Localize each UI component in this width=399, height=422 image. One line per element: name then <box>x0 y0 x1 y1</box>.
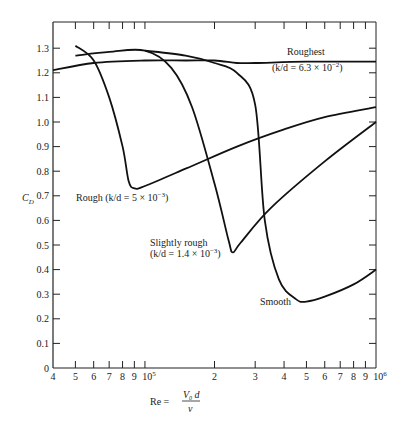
label-roughest: Roughest <box>287 46 325 57</box>
svg-text:0.9: 0.9 <box>37 141 50 152</box>
svg-text:1.0: 1.0 <box>37 117 50 128</box>
label-slightly-rough-kd: (k/d = 1.4 × 10−3) <box>150 247 221 260</box>
drag-coefficient-chart: 4567891052345678910600.10.20.30.40.50.60… <box>0 0 399 422</box>
y-axis-label: CD <box>22 192 34 206</box>
label-slightly-rough: Slightly rough <box>150 237 208 248</box>
svg-text:7: 7 <box>107 371 112 382</box>
svg-text:5: 5 <box>73 371 78 382</box>
svg-text:ν: ν <box>188 403 193 414</box>
svg-text:4: 4 <box>51 371 56 382</box>
axis-tick-labels: 4567891052345678910600.10.20.30.40.50.60… <box>37 43 388 382</box>
svg-text:2: 2 <box>212 371 217 382</box>
svg-text:0.6: 0.6 <box>37 215 50 226</box>
svg-text:0.4: 0.4 <box>37 264 50 275</box>
svg-text:1.3: 1.3 <box>37 43 50 54</box>
svg-text:7: 7 <box>338 371 343 382</box>
svg-text:1.2: 1.2 <box>37 67 50 78</box>
svg-text:6: 6 <box>322 371 327 382</box>
svg-text:105: 105 <box>142 370 156 382</box>
svg-text:9: 9 <box>363 371 368 382</box>
curves <box>53 46 376 302</box>
svg-text:1.1: 1.1 <box>37 92 50 103</box>
svg-text:0.8: 0.8 <box>37 166 50 177</box>
svg-text:4: 4 <box>282 371 287 382</box>
label-smooth: Smooth <box>260 296 291 307</box>
smooth-curve <box>145 51 376 302</box>
svg-text:3: 3 <box>253 371 258 382</box>
svg-text:0.7: 0.7 <box>37 190 50 201</box>
svg-text:0.3: 0.3 <box>37 289 50 300</box>
x-axis-label: Re = V0 d ν <box>150 389 201 414</box>
svg-text:5: 5 <box>304 371 309 382</box>
svg-text:Re =: Re = <box>150 396 170 407</box>
svg-text:106: 106 <box>373 370 387 382</box>
svg-text:8: 8 <box>120 371 125 382</box>
svg-text:0.5: 0.5 <box>37 240 50 251</box>
label-rough: Rough (k/d = 5 × 10−3) <box>76 191 168 204</box>
svg-text:8: 8 <box>351 371 356 382</box>
svg-text:V0 d: V0 d <box>183 389 201 401</box>
svg-text:9: 9 <box>132 371 137 382</box>
svg-text:0.2: 0.2 <box>37 313 50 324</box>
svg-text:6: 6 <box>91 371 96 382</box>
label-roughest-kd: (k/d = 6.3 × 10−2) <box>272 61 343 74</box>
svg-text:0.1: 0.1 <box>37 338 50 349</box>
svg-text:0: 0 <box>44 363 49 374</box>
